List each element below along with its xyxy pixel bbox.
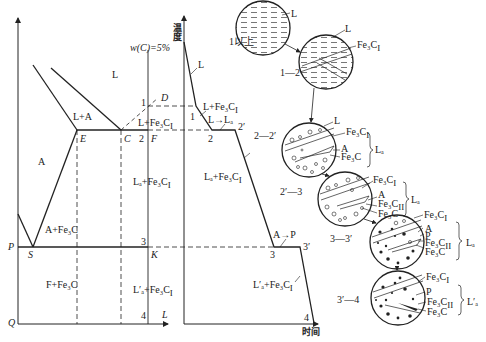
- stage-label-1: 1以上: [229, 37, 254, 47]
- microstructure-circles: [191, 1, 464, 325]
- micro6-label-fe3c-I: Fe₃CI: [426, 272, 449, 285]
- curve-label-ld-fe3c: Lₐ+Fe₃CI: [204, 172, 242, 185]
- curve-label-liquid: L: [198, 60, 204, 70]
- circle-stage-1-2: [299, 35, 353, 89]
- curve-point-2p: 2′: [238, 122, 245, 132]
- marker-1: 1: [141, 98, 146, 108]
- phase-diagram: [18, 18, 180, 324]
- region-austenite: A: [38, 157, 45, 167]
- curve-point-3: 3: [270, 250, 275, 260]
- stage-label-2-2p: 2—2′: [254, 131, 276, 141]
- region-ferrite-cementite: F+Fe₃C: [46, 280, 77, 290]
- micro2-label-L: L: [345, 24, 351, 34]
- micro5-label-fe3c-I: Fe₃CI: [424, 210, 447, 223]
- stage-label-3p-4: 3′—4: [337, 295, 359, 305]
- region-liquid-primary-cementite: L+Fe₃CI: [138, 118, 173, 131]
- micro6-bracket-ld2: L′ₐ: [467, 297, 478, 307]
- micro5-label-fe3c: Fe₃C: [425, 247, 445, 257]
- micro3-label-fe3c: Fe₃C: [341, 152, 361, 162]
- micro3-label-fe3c-I: Fe₃CI: [346, 127, 369, 140]
- region-low-temp-ledeburite-cementite: L′ₐ+Fe₃CI: [133, 285, 173, 298]
- curve-point-4: 4: [304, 313, 309, 323]
- micro4-label-fe3c-I: Fe₃CI: [373, 175, 396, 188]
- point-Q: Q: [8, 318, 15, 328]
- marker-3: 3: [141, 237, 146, 247]
- circle-stage-2p-3: [318, 172, 372, 226]
- curve-point-3p: 3′: [303, 242, 310, 252]
- curve-point-1: 1: [190, 112, 195, 122]
- micro5-bracket-ld: Lₐ: [466, 238, 475, 248]
- point-F: F: [151, 134, 157, 144]
- point-C: C: [124, 134, 131, 144]
- micro1-label-L: L: [291, 9, 297, 19]
- micro4-bracket-ld: Lₐ: [411, 195, 420, 205]
- stage-label-2p-3: 2′—3: [280, 187, 302, 197]
- stage-label-3-3p: 3—3′: [330, 234, 352, 244]
- region-austenite-cementite: A+Fe₃C: [45, 225, 78, 235]
- micro2-label-fe3c: Fe₃CI: [357, 40, 380, 53]
- axis-end-L: L: [162, 310, 168, 320]
- circle-stage-3-3p: [370, 215, 424, 269]
- micro3-bracket-ld: Lₐ: [375, 145, 384, 155]
- point-P: P: [8, 242, 14, 252]
- fe-c-solidification-figure: w(C)=5% L L+A A A+Fe₃C F+Fe₃C L+Fe₃CI Lₐ…: [0, 0, 486, 342]
- micro4-label-fe3c: Fe₃C: [378, 209, 398, 219]
- curve-label-ld2-fe3c: L′ₐ+Fe₃CI: [253, 280, 293, 293]
- point-S: S: [28, 250, 33, 260]
- circle-stage-3p-4: [371, 271, 425, 325]
- micro6-label-fe3c: Fe₃C: [427, 307, 447, 317]
- composition-label: w(C)=5%: [130, 43, 170, 53]
- diagram-lines: [0, 0, 486, 342]
- region-ledeburite-cementite: Lₐ+Fe₃CI: [133, 177, 171, 190]
- point-K: K: [151, 250, 158, 260]
- curve-label-l-to-ld: L→Lₐ: [208, 115, 233, 125]
- time-axis-label: 时间: [302, 328, 320, 337]
- region-liquid-austenite: L+A: [73, 112, 92, 122]
- region-liquid: L: [112, 70, 118, 80]
- point-D: D: [161, 93, 168, 103]
- micro3-label-L: L: [334, 116, 340, 126]
- curve-label-a-to-p: A→P: [273, 230, 296, 240]
- marker-2: 2: [139, 134, 144, 144]
- curve-point-2: 2: [208, 134, 213, 144]
- point-E: E: [80, 134, 86, 144]
- marker-4: 4: [141, 311, 146, 321]
- stage-label-1-2: 1—2: [280, 68, 300, 78]
- temperature-axis-label: 温度: [172, 23, 181, 41]
- circle-stage-2-2p: [282, 123, 336, 177]
